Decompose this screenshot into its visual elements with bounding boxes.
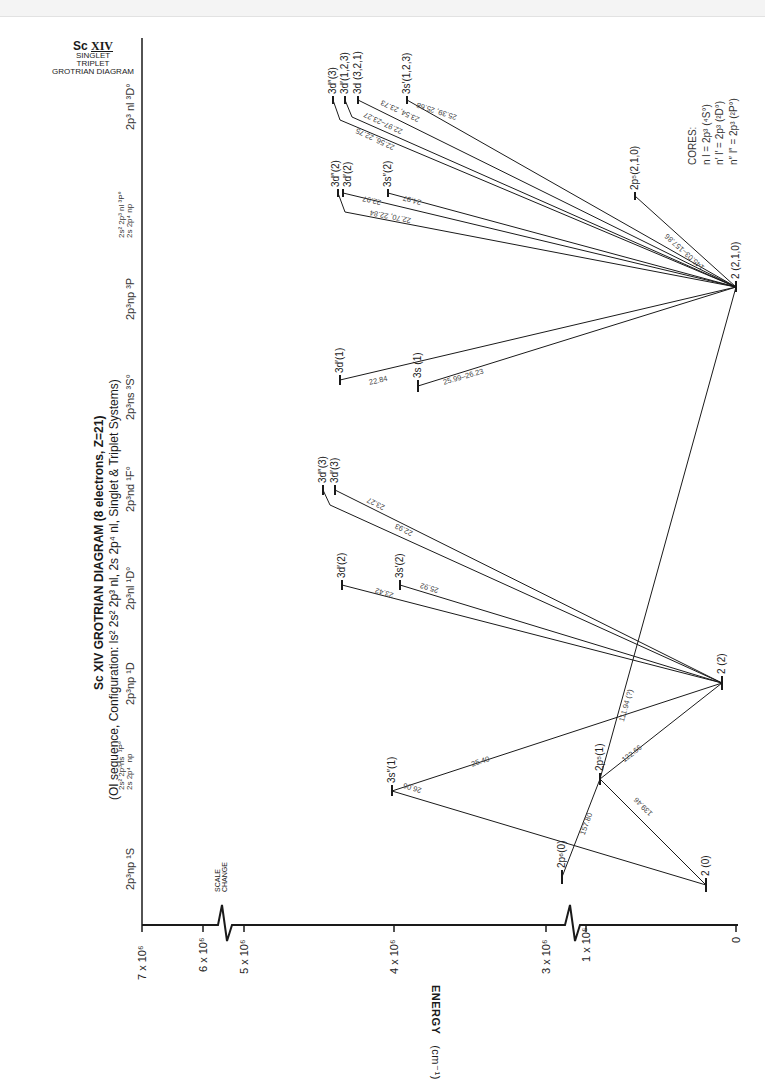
level-3dp-123: 3d′(1,2,3) <box>339 52 350 94</box>
level-3dpp-3-singlet: 3d″(3) <box>317 456 328 483</box>
tick-4e6: 4 x 10⁶ <box>388 940 400 975</box>
level-3d-2-singlet: 3d′(2) <box>336 553 347 578</box>
level-3dp-3-singlet: 3d′(3) <box>329 458 340 483</box>
diagram-heading-line2: (OI sequence, Configuration: ls² 2s² 2p³… <box>107 379 121 800</box>
tick-3e6: 3 x 10⁶ <box>540 940 552 975</box>
cores-line-3: n″ l″ = 2p³ (²P°) <box>727 98 741 165</box>
cores-legend: CORES: n l = 2p³ (⁴S°) n′ l′ = 2p³ (²D°)… <box>686 98 740 165</box>
column-label-1Do: 2p³nl ¹D° <box>124 566 136 610</box>
cores-line-1: n l = 2p³ (⁴S°) <box>700 98 714 165</box>
energy-axis <box>142 905 738 941</box>
column-label-1Fo: 2p³nd ¹F° <box>124 466 136 512</box>
level-3sp-123: 3s′(1,2,3) <box>401 53 412 94</box>
diagram-heading-line1: Sc XIV GROTRIAN DIAGRAM (8 electrons, Z=… <box>92 416 106 690</box>
column-label-3So: 2p³ns ³S° <box>124 374 136 420</box>
level-2-210: 2 (2,1,0) <box>730 242 741 279</box>
energy-axis-title: ENERGY (cm⁻¹) <box>429 985 442 1080</box>
level-3d-321: 3d (3,2,1) <box>352 51 363 94</box>
level-2-0: 2 (0) <box>700 855 711 876</box>
column-label-1S: 2p³np ¹S <box>124 848 136 890</box>
level-3spp-2: 3s″(2) <box>382 161 393 187</box>
level-3s-2-singlet: 3s′(2) <box>394 553 405 578</box>
column-label-3P: 2p³np ³P <box>124 278 136 320</box>
level-3dp-2: 3d′(2) <box>342 162 353 187</box>
axis-title-energy: ENERGY <box>430 985 442 1034</box>
tick-0: 0 <box>730 937 742 943</box>
column-label-1D: 2p³np ¹D <box>124 662 136 705</box>
column-label-3Po: 2s² 2p³ nl ³P° 2s 2p⁴ np <box>118 191 135 238</box>
level-2p6-0: 2p⁶(0) <box>556 841 567 868</box>
column-label-3Do: 2p³ nl ³D° <box>124 83 136 130</box>
level-3dp-1: 3d′(1) <box>334 348 345 373</box>
cores-line-2: n′ l′ = 2p³ (²D°) <box>713 98 727 165</box>
tick-7e6: 7 x 10⁶ <box>136 946 148 981</box>
level-2p5-1: 2p⁵(1) <box>594 744 605 772</box>
level-3s2-1: 3s″(1) <box>386 757 397 783</box>
tick-5e6: 5 x 10⁶ <box>238 940 250 975</box>
tick-1e6: 1 x 10⁶ <box>580 928 592 963</box>
level-3dpp-3-triplet: 3d″(3) <box>327 67 338 94</box>
level-2-2: 2 (2) <box>716 653 727 674</box>
level-2p5-210: 2p⁵(2,1,0) <box>629 146 640 190</box>
column-label-1Po: 2s² 2p³ns ¹P° 2s 2p⁴ np <box>118 741 135 790</box>
tick-6e6: 6 x 10⁶ <box>197 938 209 973</box>
level-3s-1: 3s (1) <box>412 352 423 378</box>
scale-change-label: SCALE CHANGE <box>214 862 228 892</box>
level-3dpp-2: 3d″(2) <box>330 160 341 187</box>
axis-title-unit: (cm⁻¹) <box>430 1045 442 1080</box>
cores-title: CORES: <box>686 98 700 165</box>
